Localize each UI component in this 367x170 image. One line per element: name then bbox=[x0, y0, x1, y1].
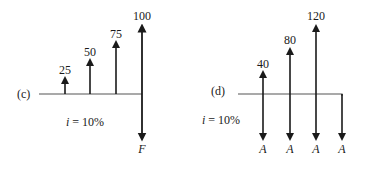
diagram-d-label: (d) bbox=[211, 84, 225, 98]
flow-value: A bbox=[311, 142, 320, 156]
interest-rate-label: i = 10% bbox=[202, 113, 240, 127]
flow-value: A bbox=[285, 142, 294, 156]
flow-value: 100 bbox=[133, 9, 151, 23]
flow-value: 25 bbox=[59, 63, 71, 77]
cash-flow-diagrams: (c) 25 50 75 100 F i = 10% (d) 40 80 120… bbox=[0, 0, 367, 170]
diagram-c-label: (c) bbox=[17, 87, 30, 101]
flow-value: A bbox=[258, 142, 267, 156]
flow-value: 50 bbox=[84, 45, 96, 59]
flow-value: F bbox=[137, 142, 146, 156]
diagram-d: (d) 40 80 120 A A A A i = 10% bbox=[202, 9, 346, 156]
flow-value: 40 bbox=[257, 57, 269, 71]
interest-rate-label: i = 10% bbox=[66, 115, 104, 129]
flow-value: 80 bbox=[284, 33, 296, 47]
flow-value: 75 bbox=[110, 27, 122, 41]
flow-value: A bbox=[337, 142, 346, 156]
flow-value: 120 bbox=[307, 9, 325, 23]
diagram-c: (c) 25 50 75 100 F i = 10% bbox=[17, 9, 151, 156]
